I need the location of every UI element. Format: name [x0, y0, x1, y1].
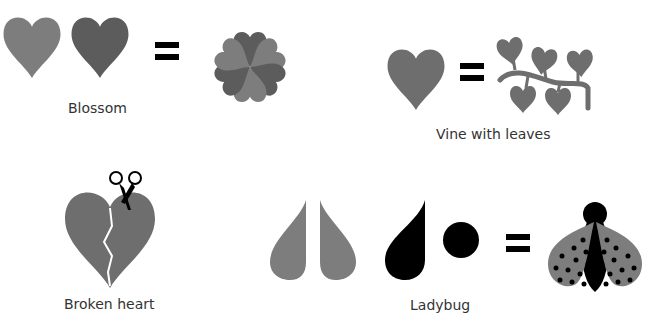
equals-icon [155, 42, 179, 62]
teardrop-icon-right [320, 200, 360, 280]
ladybug-icon [548, 200, 643, 305]
blossom-label: Blossom [68, 100, 127, 116]
vine-icon [498, 36, 593, 116]
teardrop-icon-left [270, 200, 310, 280]
ladybug-label: Ladybug [410, 297, 470, 313]
equals-icon [460, 63, 484, 83]
black-teardrop-icon [385, 200, 427, 282]
broken-heart-label: Broken heart [64, 296, 154, 312]
blossom-icon [250, 67, 350, 167]
equals-icon [506, 234, 530, 254]
scissors-icon [108, 170, 148, 230]
circle-icon [443, 222, 483, 262]
vine-label: Vine with leaves [436, 126, 551, 142]
